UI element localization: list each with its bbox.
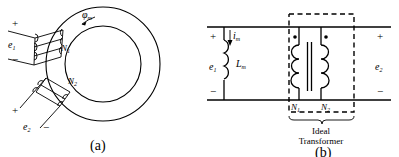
secondary-coil bbox=[321, 45, 329, 88]
e2-minus-sign: − bbox=[377, 85, 383, 97]
e1-label: e1 bbox=[8, 39, 15, 51]
panel-a-toroid: φm bbox=[0, 0, 200, 157]
e2-plus-sign: + bbox=[12, 104, 18, 116]
e2-label: e2 bbox=[23, 121, 30, 133]
e2-plus-sign: + bbox=[377, 30, 383, 42]
e1-minus-sign: − bbox=[12, 53, 18, 65]
polarity-dot-primary bbox=[293, 35, 297, 39]
caption-b: (b) bbox=[315, 145, 332, 157]
flux-label: φm bbox=[82, 9, 93, 21]
n1-lead-top bbox=[8, 31, 35, 38]
im-label: im bbox=[233, 30, 241, 42]
n2-label: N2 bbox=[67, 76, 77, 87]
e1-plus-sign: + bbox=[12, 17, 18, 29]
n1-rail-left bbox=[34, 38, 35, 65]
panel-b-circuit: im Lm + − e1 bbox=[199, 0, 399, 157]
e2-label: e2 bbox=[375, 61, 382, 73]
core-inner-circle bbox=[65, 26, 141, 102]
primary-coil bbox=[291, 45, 299, 88]
polarity-dot-secondary bbox=[324, 35, 328, 39]
n2-lead-top bbox=[20, 78, 46, 108]
figure-root: φm bbox=[0, 0, 399, 157]
e1-label: e1 bbox=[209, 61, 216, 73]
n2-rail-right bbox=[60, 92, 70, 106]
n2-label: N2 bbox=[320, 102, 330, 113]
circuit-svg: im Lm + − e1 bbox=[199, 0, 399, 157]
n1-turn-1-front bbox=[35, 30, 63, 38]
e1-minus-sign: − bbox=[210, 85, 216, 97]
e1-plus-sign: + bbox=[210, 30, 216, 42]
winding-n2 bbox=[33, 78, 70, 106]
e2-minus-sign: − bbox=[43, 121, 49, 133]
n1-turn-4-front bbox=[34, 57, 61, 65]
toroid-svg: φm bbox=[0, 0, 200, 157]
n1-turn-2-front bbox=[34, 39, 62, 47]
core-outer-circle bbox=[46, 7, 160, 121]
magnetizing-inductor-coil bbox=[224, 40, 228, 79]
lm-label: Lm bbox=[235, 58, 247, 70]
n1-label: N1 bbox=[290, 102, 300, 113]
ideal-transformer-label-line1: Ideal bbox=[312, 126, 330, 136]
ideal-transformer-brace bbox=[289, 116, 354, 124]
caption-a: (a) bbox=[90, 138, 106, 154]
n1-label: N1 bbox=[60, 43, 70, 54]
